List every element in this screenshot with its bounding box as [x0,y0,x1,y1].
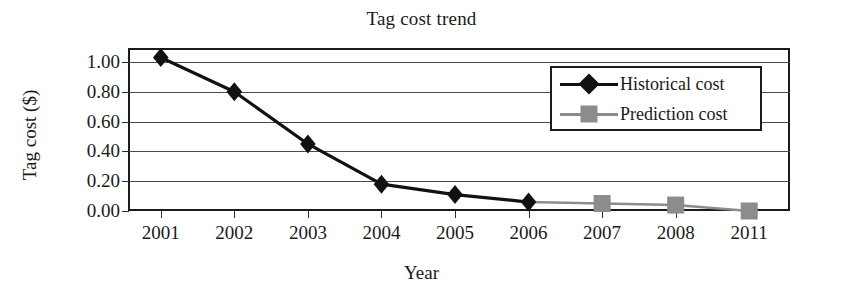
legend-square-glyph [581,106,598,123]
gridline [128,62,790,63]
x-tick-label: 2007 [567,222,637,244]
y-tick-label: 0.40 [46,140,120,162]
y-tick-mark [122,211,129,212]
square-marker-icon [558,103,620,125]
legend-diamond-glyph [578,73,599,94]
x-tick-label: 2001 [126,222,196,244]
legend-label-prediction-cost: Prediction cost [620,104,727,125]
x-tick-mark [455,211,456,218]
x-tick-label: 2008 [641,222,711,244]
x-tick-label: 2011 [714,222,784,244]
diamond-marker-icon [558,73,620,95]
y-axis-title-text: Tag cost ($) [19,90,41,180]
x-tick-label: 2003 [273,222,343,244]
y-tick-mark [122,122,129,123]
x-tick-label: 2006 [494,222,564,244]
y-tick-mark [122,62,129,63]
x-tick-mark [161,211,162,218]
x-tick-mark [308,211,309,218]
legend-item-historical-cost: Historical cost [552,69,760,99]
x-tick-mark [749,211,750,218]
y-tick-label: 1.00 [46,51,120,73]
chart-legend: Historical cost Prediction cost [550,66,762,131]
x-tick-mark [602,211,603,218]
x-tick-mark [676,211,677,218]
chart-figure: Tag cost trend Tag cost ($) Year 0.000.2… [0,0,843,304]
x-tick-mark [381,211,382,218]
x-tick-label: 2004 [346,222,416,244]
x-tick-mark [234,211,235,218]
chart-title: Tag cost trend [0,8,843,30]
gridline [128,181,790,182]
x-axis-title: Year [0,262,843,284]
y-tick-mark [122,92,129,93]
y-tick-label: 0.20 [46,170,120,192]
y-tick-mark [122,181,129,182]
x-tick-label: 2005 [420,222,490,244]
y-tick-mark [122,151,129,152]
y-tick-label: 0.00 [46,200,120,222]
x-tick-label: 2002 [199,222,269,244]
y-axis-title: Tag cost ($) [18,55,42,215]
legend-label-historical-cost: Historical cost [620,74,724,95]
x-tick-mark [529,211,530,218]
y-tick-label: 0.60 [46,111,120,133]
legend-item-prediction-cost: Prediction cost [552,99,760,129]
y-tick-label: 0.80 [46,81,120,103]
gridline [128,151,790,152]
